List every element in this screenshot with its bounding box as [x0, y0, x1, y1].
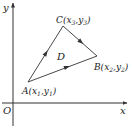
vertex-label-c: C(x3,y3): [56, 15, 91, 26]
arrow-icon-a-to-b: [63, 64, 70, 70]
arrow-icon-a-to-c: [43, 49, 50, 56]
region-label-d: D: [56, 51, 65, 62]
vertex-label-b: B(x2,y2): [93, 62, 129, 73]
x-axis-label: x: [120, 105, 126, 116]
vertex-label-a: A(x1,y1): [21, 86, 57, 97]
diagram-canvas: O x y D C(x3,y3) B(x2,y2) A(x1,y1): [0, 0, 132, 128]
y-axis-label: y: [2, 2, 9, 13]
origin-label: O: [3, 105, 11, 116]
